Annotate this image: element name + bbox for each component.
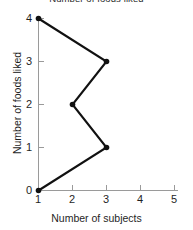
line-chart-figure: Number of foods liked 0 1 2 3 4 1 2 3 4 … [0,0,193,230]
x-axis-label: Number of subjects [0,212,193,224]
x-tick-label-4: 4 [130,193,150,205]
data-point-3 [104,145,110,151]
x-tick-label-5: 5 [164,193,184,205]
x-tick-label-1: 1 [28,193,48,205]
data-point-1 [104,59,110,65]
data-point-2 [70,102,76,108]
x-tick-label-3: 3 [96,193,116,205]
y-tick-label-4: 4 [18,12,32,24]
data-point-0 [36,16,42,22]
data-markers [36,16,110,194]
x-tick-label-2: 2 [62,193,82,205]
y-axis-label: Number of foods liked [11,28,23,178]
